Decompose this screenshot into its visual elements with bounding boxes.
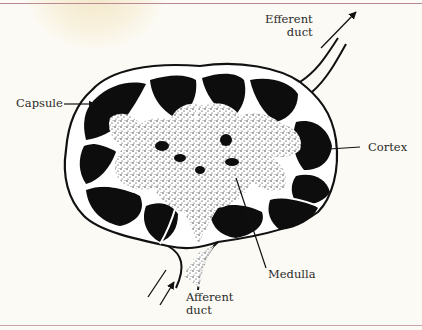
figure-page: Efferent duct Capsule Cortex Medulla Aff… [0, 0, 422, 330]
lymph-node-illustration [0, 0, 422, 330]
label-capsule: Capsule [16, 97, 63, 110]
label-efferent-duct: Efferent duct [265, 13, 313, 39]
label-cortex: Cortex [368, 141, 407, 154]
label-efferent-line2: duct [265, 26, 313, 39]
label-afferent-duct: Afferent duct [186, 291, 233, 317]
label-medulla: Medulla [268, 268, 316, 281]
label-afferent-line2: duct [186, 304, 233, 317]
